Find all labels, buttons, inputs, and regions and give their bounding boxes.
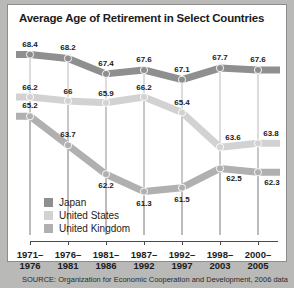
legend-item-label: United States xyxy=(59,210,119,221)
x-axis-tick xyxy=(258,241,259,245)
data-point-label: 66.2 xyxy=(136,83,152,92)
x-axis-tick-labels: 1971–19761976–19811981–19861987–19921992… xyxy=(8,245,286,271)
legend-item[interactable]: United States xyxy=(44,209,174,222)
legend-swatch-icon xyxy=(44,211,53,220)
data-point-label: 62.3 xyxy=(264,178,280,187)
data-point-label: 63.8 xyxy=(263,129,279,138)
data-point-label: 62.2 xyxy=(98,181,114,190)
data-point-label: 67.1 xyxy=(174,64,190,73)
x-axis-tick-label: 1992–1997 xyxy=(169,249,195,271)
x-axis-tick xyxy=(144,241,145,245)
legend-item[interactable]: United Kingdom xyxy=(44,222,174,235)
data-point-label: 65.2 xyxy=(22,101,38,110)
data-point-label: 65.4 xyxy=(174,98,190,107)
data-point-label: 67.6 xyxy=(136,55,152,64)
x-axis-tick-label: 1981–1986 xyxy=(93,249,119,271)
data-point-label: 63.6 xyxy=(225,133,241,142)
data-point-label: 68.4 xyxy=(22,39,38,48)
data-point-label: 67.7 xyxy=(212,53,228,62)
data-point-label: 62.5 xyxy=(226,174,242,183)
page-title: Average Age of Retirement in Select Coun… xyxy=(19,12,264,24)
source-note: SOURCE: Organization for Economic Cooper… xyxy=(22,275,288,284)
data-point-label: 63.7 xyxy=(60,130,76,139)
x-axis-tick-label: 1998–2003 xyxy=(207,249,233,271)
data-point-label: 66 xyxy=(64,86,73,95)
x-axis-tick xyxy=(30,241,31,245)
data-point-label: 61.5 xyxy=(174,194,190,203)
legend-item[interactable]: Japan xyxy=(44,196,174,209)
x-axis-tick-label: 1971–1976 xyxy=(17,249,43,271)
chart-figure: Average Age of Retirement in Select Coun… xyxy=(7,4,287,262)
data-point-label: 67.4 xyxy=(98,58,114,67)
data-point-label: 68.2 xyxy=(60,43,76,52)
x-axis-tick-label: 1987–1992 xyxy=(131,249,157,271)
x-axis-tick-label: 2000–2005 xyxy=(245,249,271,271)
legend-item-label: United Kingdom xyxy=(59,223,130,234)
x-axis-tick-label: 1976–1981 xyxy=(55,249,81,271)
x-axis-tick xyxy=(68,241,69,245)
legend-swatch-icon xyxy=(44,198,53,207)
data-point-label: 65.9 xyxy=(98,88,114,97)
data-point-label: 67.6 xyxy=(250,55,266,64)
x-axis-tick xyxy=(106,241,107,245)
data-point-label: 66.2 xyxy=(22,83,38,92)
legend-swatch-icon xyxy=(44,224,53,233)
x-axis-tick xyxy=(182,241,183,245)
legend: JapanUnited StatesUnited Kingdom xyxy=(44,196,174,235)
x-axis-tick xyxy=(220,241,221,245)
legend-item-label: Japan xyxy=(59,197,86,208)
